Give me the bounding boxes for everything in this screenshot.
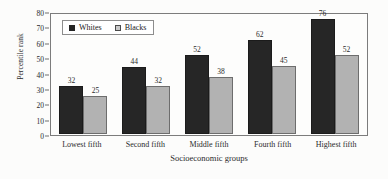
y-tick-label: 40 [28, 70, 44, 79]
y-tick-mark [45, 105, 49, 106]
y-tick-label: 80 [28, 9, 44, 18]
bar-slot: 52 [335, 15, 359, 134]
bar-value-label: 32 [59, 76, 83, 85]
bar-whites[interactable] [311, 19, 335, 134]
bar-slot: 76 [311, 15, 335, 134]
bar-blacks[interactable] [335, 55, 359, 134]
x-axis-title: Socioeconomic groups [50, 153, 368, 163]
legend-swatch-whites-icon [69, 25, 75, 31]
bar-value-label: 25 [83, 86, 107, 95]
legend-item-whites: Whites [69, 23, 102, 32]
y-tick-label: 30 [28, 85, 44, 94]
y-tick-mark [45, 74, 49, 75]
y-tick-label: 20 [28, 101, 44, 110]
bar-whites[interactable] [59, 86, 83, 134]
y-tick-label: 50 [28, 55, 44, 64]
x-tick-label: Highest fifth [304, 140, 368, 149]
bar-group: 5238 [178, 15, 241, 134]
y-tick-label: 60 [28, 39, 44, 48]
legend-label-blacks: Blacks [125, 23, 147, 32]
y-axis-tick-labels: 01020304050607080 [26, 0, 44, 179]
bar-blacks[interactable] [209, 77, 233, 134]
bar-group: 6245 [240, 15, 303, 134]
bar-value-label: 38 [209, 67, 233, 76]
bar-chart-figure: Percentile rank 01020304050607080 322544… [0, 0, 388, 179]
bar-value-label: 52 [185, 45, 209, 54]
bar-slot: 52 [185, 15, 209, 134]
chart-legend: Whites Blacks [62, 20, 154, 35]
bar-blacks[interactable] [146, 86, 170, 134]
x-axis-tick-labels: Lowest fifthSecond fifthMiddle fifthFour… [50, 140, 368, 149]
bar-slot: 38 [209, 15, 233, 134]
bar-value-label: 32 [146, 76, 170, 85]
bar-value-label: 44 [122, 57, 146, 66]
bar-value-label: 52 [335, 45, 359, 54]
bar-value-label: 76 [311, 9, 335, 18]
x-tick-label: Lowest fifth [50, 140, 114, 149]
bar-value-label: 62 [248, 30, 272, 39]
bar-whites[interactable] [185, 55, 209, 134]
bar-whites[interactable] [248, 40, 272, 134]
legend-item-blacks: Blacks [115, 23, 147, 32]
y-tick-label: 0 [28, 132, 44, 141]
x-tick-label: Fourth fifth [241, 140, 305, 149]
y-tick-mark [45, 13, 49, 14]
bar-slot: 45 [272, 15, 296, 134]
bar-value-label: 45 [272, 56, 296, 65]
x-tick-label: Second fifth [114, 140, 178, 149]
legend-label-whites: Whites [79, 23, 102, 32]
bar-blacks[interactable] [272, 66, 296, 134]
y-tick-label: 70 [28, 24, 44, 33]
bar-slot: 62 [248, 15, 272, 134]
bar-blacks[interactable] [83, 96, 107, 134]
y-tick-mark [45, 59, 49, 60]
y-tick-label: 10 [28, 116, 44, 125]
y-tick-mark [45, 136, 49, 137]
plot-area: 32254432523862457652 Whites Blacks [50, 13, 368, 136]
bar-whites[interactable] [122, 67, 146, 134]
y-tick-mark [45, 43, 49, 44]
y-tick-mark [45, 120, 49, 121]
y-tick-mark [45, 28, 49, 29]
legend-swatch-blacks-icon [115, 25, 121, 31]
y-axis-title: Percentile rank [16, 12, 25, 102]
x-tick-label: Middle fifth [177, 140, 241, 149]
y-tick-mark [45, 89, 49, 90]
bar-group: 7652 [303, 15, 366, 134]
